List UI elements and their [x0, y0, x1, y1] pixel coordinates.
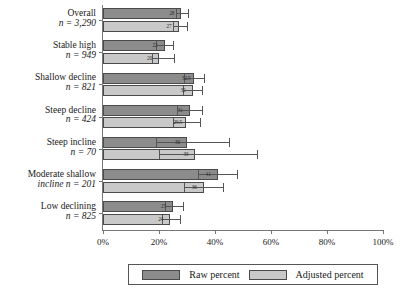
error-bar-cap [152, 54, 153, 63]
bar-row: 32.5 [103, 73, 383, 84]
x-tick [159, 230, 160, 234]
category-n: n = 424 [0, 115, 96, 125]
legend-swatch-raw [142, 270, 180, 280]
y-tick [99, 213, 103, 214]
bar-value-label: 33 [183, 151, 188, 157]
error-bar [198, 174, 237, 175]
category-label: Stable highn = 949 [0, 41, 96, 61]
bar-row: 20 [103, 53, 383, 64]
category-n: n = 3,290 [0, 19, 96, 29]
error-bar [152, 58, 174, 59]
category-n: n = 70 [0, 148, 96, 158]
bar-row: 32 [103, 85, 383, 96]
x-tick [271, 230, 272, 234]
bar-row: 28 [103, 8, 383, 19]
category-label: Low decliningn = 825 [0, 202, 96, 222]
y-tick [99, 84, 103, 85]
error-bar [183, 90, 203, 91]
bar-row: 36 [103, 182, 383, 193]
error-bar-cap [173, 41, 174, 50]
category-n: n = 825 [0, 212, 96, 222]
error-bar [156, 45, 173, 46]
bar-chart: Overalln = 3,290Stable highn = 949Shallo… [0, 0, 406, 290]
category-label: Steep inclinen = 70 [0, 138, 96, 158]
bar-row: 22 [103, 40, 383, 51]
category-label: Shallow declinen = 821 [0, 73, 96, 93]
plot-area: 0%20%40%60%80%100% 2827222032.5323129.53… [103, 5, 383, 230]
category-label: Overalln = 3,290 [0, 9, 96, 29]
bar-row: 33 [103, 149, 383, 160]
y-tick [99, 52, 103, 53]
error-bar-cap [237, 170, 238, 179]
error-bar-cap [183, 202, 184, 211]
error-bar [159, 154, 257, 155]
bar-row: 27 [103, 21, 383, 32]
bar-value-label: 20 [147, 55, 152, 61]
error-bar-cap [229, 138, 230, 147]
x-tick [327, 230, 328, 234]
error-bar-cap [174, 54, 175, 63]
chart-legend: Raw percent Adjusted percent [128, 264, 378, 285]
error-bar [184, 187, 223, 188]
bar-row: 31 [103, 105, 383, 116]
bar-value-label: 24 [158, 216, 163, 222]
bar-row: 41 [103, 169, 383, 180]
error-bar-cap [176, 9, 177, 18]
x-tick-label: 80% [319, 237, 336, 247]
x-tick [383, 230, 384, 234]
error-bar-cap [188, 9, 189, 18]
error-bar-cap [223, 183, 224, 192]
x-tick-label: 0% [97, 237, 109, 247]
category-n: n = 821 [0, 83, 96, 93]
y-tick [99, 20, 103, 21]
legend-label-adjusted: Adjusted percent [296, 269, 364, 280]
bar-value-label: 36 [192, 184, 197, 190]
bar-adjusted [103, 85, 193, 96]
bar-value-label: 29.5 [174, 119, 182, 125]
y-tick [99, 181, 103, 182]
error-bar-cap [202, 106, 203, 115]
bar-row: 24 [103, 214, 383, 225]
bar-value-label: 31 [178, 107, 183, 113]
category-label: Moderate shallowincline n = 201 [0, 170, 96, 190]
error-bar-cap [202, 86, 203, 95]
error-bar-cap [159, 150, 160, 159]
x-tick-label: 20% [151, 237, 168, 247]
y-tick [99, 117, 103, 118]
bar-value-label: 32 [181, 87, 186, 93]
error-bar-cap [198, 170, 199, 179]
bar-raw [103, 73, 194, 84]
x-tick [103, 230, 104, 234]
legend-label-raw: Raw percent [189, 269, 239, 280]
error-bar-cap [257, 150, 258, 159]
error-bar-cap [187, 22, 188, 31]
bar-row: 25 [103, 201, 383, 212]
x-tick-label: 100% [373, 237, 394, 247]
bar-value-label: 25 [161, 203, 166, 209]
bar-value-label: 41 [206, 171, 211, 177]
y-tick [99, 149, 103, 150]
bar-row: 29.5 [103, 117, 383, 128]
category-axis-labels: Overalln = 3,290Stable highn = 949Shallo… [0, 0, 101, 230]
x-tick-label: 40% [207, 237, 224, 247]
category-n: n = 949 [0, 51, 96, 61]
bar-value-label: 30 [175, 139, 180, 145]
bar-value-label: 32.5 [182, 75, 190, 81]
bar-value-label: 27 [167, 23, 172, 29]
error-bar [156, 142, 229, 143]
bar-row: 30 [103, 137, 383, 148]
category-n: incline n = 201 [0, 180, 96, 190]
error-bar-cap [200, 118, 201, 127]
legend-swatch-adjusted [249, 270, 287, 280]
error-bar-cap [204, 74, 205, 83]
x-tick [215, 230, 216, 234]
error-bar [176, 13, 189, 14]
error-bar-cap [184, 183, 185, 192]
error-bar-cap [173, 22, 174, 31]
error-bar [173, 26, 187, 27]
bar-value-label: 22 [153, 42, 158, 48]
error-bar-cap [180, 215, 181, 224]
x-tick-label: 60% [263, 237, 280, 247]
bar-value-label: 28 [169, 10, 174, 16]
error-bar [162, 219, 180, 220]
